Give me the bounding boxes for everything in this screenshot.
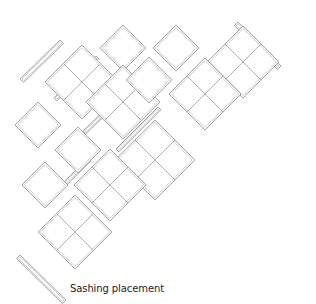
sashing-placement-diagram: [0, 0, 316, 304]
plain-block: [22, 162, 68, 208]
plain-block: [153, 25, 199, 71]
quilt-blocks: [15, 25, 279, 269]
plain-block: [100, 25, 146, 71]
plain-block: [15, 102, 61, 148]
diagram-caption: Sashing placement: [70, 283, 164, 294]
sashing-strip: [17, 255, 66, 304]
